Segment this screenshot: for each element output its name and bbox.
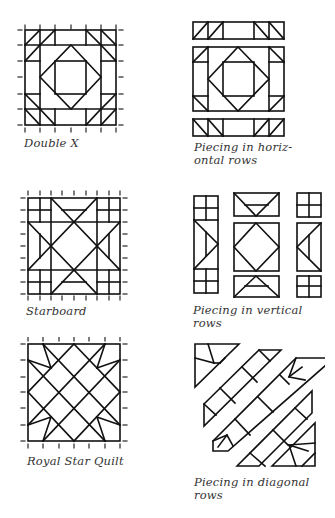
caption-line-2: ontal rows <box>194 154 292 167</box>
tick-marks <box>21 191 127 300</box>
caption-line-2: rows <box>194 489 309 502</box>
caption-horizontal-rows: Piecing in horiz- ontal rows <box>194 141 292 167</box>
royal-star-quilt-diagram <box>15 337 130 456</box>
caption-double-x: Double X <box>24 137 79 150</box>
vertical-rows-diagram <box>188 188 328 302</box>
tick-marks <box>18 25 123 132</box>
double-x-diagram <box>15 18 130 140</box>
horizontal-rows-diagram <box>188 18 293 144</box>
caption-vertical-rows: Piecing in vertical rows <box>193 304 335 330</box>
caption-diagonal-rows: Piecing in diagonal rows <box>194 476 309 502</box>
tick-marks <box>21 337 127 448</box>
starboard-diagram <box>15 188 130 310</box>
caption-royal-star-quilt: Royal Star Quilt <box>27 455 124 468</box>
diagonal-rows-diagram <box>190 335 325 479</box>
caption-starboard: Starboard <box>26 305 87 318</box>
